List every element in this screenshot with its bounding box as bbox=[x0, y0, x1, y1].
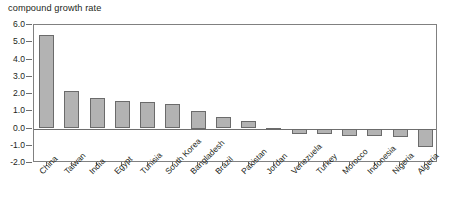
y-tick-mark bbox=[26, 76, 32, 77]
bar-china bbox=[39, 35, 54, 128]
y-tick-mark bbox=[26, 110, 32, 111]
y-tick-mark bbox=[26, 41, 32, 42]
y-tick-label: 2.0 bbox=[13, 88, 25, 98]
y-tick-mark bbox=[26, 24, 32, 25]
bar-nigeria bbox=[393, 129, 408, 138]
y-tick-label: 4.0 bbox=[13, 54, 25, 64]
bar-pakistan bbox=[241, 121, 256, 129]
y-tick-label: 3.0 bbox=[13, 71, 25, 81]
bar-south-korea bbox=[165, 104, 180, 128]
bar-indonesia bbox=[367, 129, 382, 136]
y-tick-label: 6.0 bbox=[13, 19, 25, 29]
bar-india bbox=[90, 98, 105, 129]
bar-bangladesh bbox=[191, 111, 206, 128]
y-tick-mark bbox=[26, 59, 32, 60]
chart-title: compound growth rate bbox=[8, 3, 101, 13]
y-tick-label: 5.0 bbox=[13, 36, 25, 46]
y-tick-label: -1.0 bbox=[10, 140, 25, 150]
y-tick-mark bbox=[26, 162, 32, 163]
bar-turkey bbox=[317, 129, 332, 134]
bar-venezuela bbox=[292, 129, 307, 134]
y-tick-label: 1.0 bbox=[13, 105, 25, 115]
y-axis: 6.05.04.03.02.01.00.0-1.0-2.0 bbox=[0, 24, 31, 162]
bar-morocco bbox=[342, 129, 357, 136]
y-tick-label: 0.0 bbox=[13, 123, 25, 133]
bar-brazil bbox=[216, 117, 231, 128]
bar-jordan bbox=[266, 128, 281, 130]
y-tick-mark bbox=[26, 128, 32, 129]
bar-taiwan bbox=[64, 91, 79, 128]
bar-algeria bbox=[418, 129, 433, 148]
bar-tunisia bbox=[140, 102, 155, 129]
y-tick-mark bbox=[26, 93, 32, 94]
plot-area bbox=[34, 25, 436, 161]
compound-growth-rate-chart: compound growth rate 6.05.04.03.02.01.00… bbox=[0, 0, 449, 216]
plot-frame bbox=[33, 24, 437, 162]
y-tick-label: -2.0 bbox=[10, 157, 25, 167]
y-tick-mark bbox=[26, 145, 32, 146]
bar-egypt bbox=[115, 101, 130, 129]
